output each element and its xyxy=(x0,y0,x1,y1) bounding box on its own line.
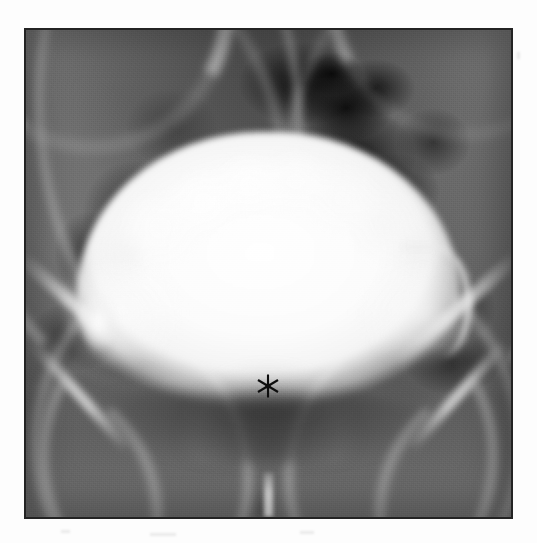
scan-speck xyxy=(517,52,520,59)
bladder-diverticulum-left xyxy=(79,293,118,351)
scan-speck xyxy=(300,531,314,534)
scan-speck xyxy=(61,530,70,533)
radiograph-page xyxy=(0,0,537,543)
xray-plate xyxy=(26,30,511,517)
pubic-symphysis xyxy=(264,473,273,517)
scan-speck xyxy=(150,533,176,536)
radiograph-frame xyxy=(24,28,513,519)
